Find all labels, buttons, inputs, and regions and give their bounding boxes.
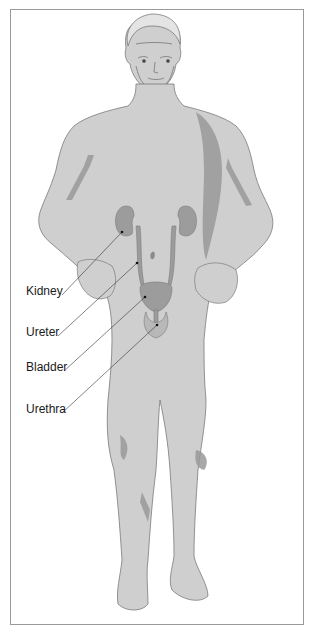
urethra-label: Urethra (26, 402, 66, 416)
ureter-label: Ureter (26, 325, 59, 339)
left-hand (77, 259, 115, 299)
kidney-label: Kidney (26, 284, 63, 298)
human-figure-illustration (0, 0, 311, 633)
left-kidney (115, 206, 134, 236)
bladder-label: Bladder (26, 360, 67, 374)
right-kidney (178, 206, 197, 236)
torso (39, 84, 273, 610)
